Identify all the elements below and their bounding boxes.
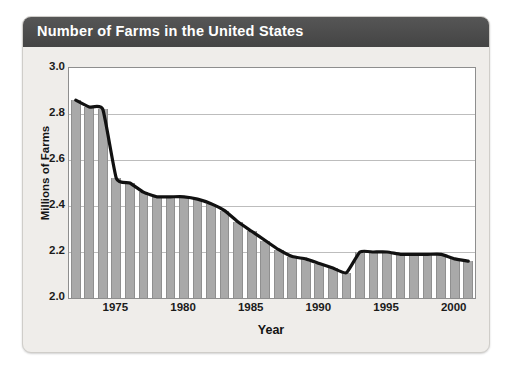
bar (233, 222, 243, 298)
bar (342, 273, 352, 298)
bar (84, 107, 94, 298)
chart-area: Millions of Farms 3.02.82.62.42.22.0 197… (23, 47, 489, 353)
bar (260, 241, 270, 299)
bar (396, 254, 406, 298)
x-axis-title: Year (68, 323, 474, 337)
chart-card: Number of Farms in the United States Mil… (22, 16, 490, 353)
bar (314, 264, 324, 299)
chart-title-bar: Number of Farms in the United States (23, 17, 489, 47)
bar (463, 261, 473, 298)
bar (206, 204, 216, 298)
bar (125, 183, 135, 298)
gridline (69, 114, 475, 115)
bar (71, 100, 81, 298)
x-tick-label: 1980 (161, 301, 205, 313)
y-axis-tick-labels: 3.02.82.62.42.22.0 (25, 67, 65, 299)
x-tick-label: 2000 (432, 301, 476, 313)
bar (301, 259, 311, 298)
bar (328, 268, 338, 298)
bar (355, 252, 365, 298)
bar (111, 178, 121, 298)
bar (166, 197, 176, 298)
bar (382, 252, 392, 298)
gridline (69, 160, 475, 161)
bar (287, 257, 297, 298)
x-axis-tick-labels: 197519801985199019952000 (68, 301, 474, 319)
x-tick-label: 1995 (364, 301, 408, 313)
page-title: Number of Farms in the United States (37, 23, 304, 39)
bar (274, 250, 284, 298)
y-tick-label: 2.0 (31, 290, 65, 302)
y-tick-label: 2.6 (31, 152, 65, 164)
y-tick-label: 3.0 (31, 60, 65, 72)
bar (98, 109, 108, 298)
bar (220, 211, 230, 298)
x-tick-label: 1985 (229, 301, 273, 313)
bar (369, 252, 379, 298)
bar (179, 197, 189, 298)
bar (423, 254, 433, 298)
x-tick-label: 1975 (93, 301, 137, 313)
y-tick-label: 2.2 (31, 244, 65, 256)
plot-area (68, 67, 476, 299)
x-tick-label: 1990 (296, 301, 340, 313)
bar (193, 199, 203, 298)
y-tick-label: 2.8 (31, 106, 65, 118)
bar (247, 231, 257, 298)
bar (450, 259, 460, 298)
bar (409, 254, 419, 298)
bar (152, 197, 162, 298)
bar (436, 254, 446, 298)
bar (139, 192, 149, 298)
y-tick-label: 2.4 (31, 198, 65, 210)
